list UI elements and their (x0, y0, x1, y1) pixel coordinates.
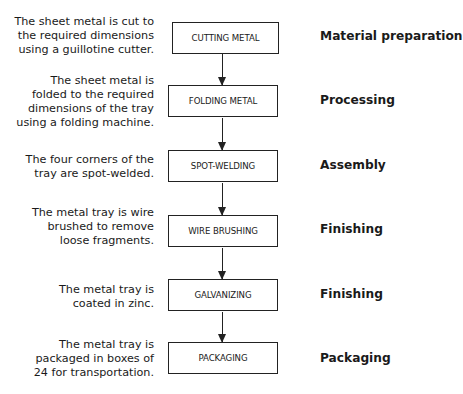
flow-arrow-3 (222, 183, 223, 215)
step-1-description: The sheet metal is cut to the required d… (14, 15, 154, 57)
stage-label-5: Finishing (320, 287, 383, 301)
desc-line: The metal tray is (34, 338, 154, 352)
desc-line: The four corners of the (26, 153, 154, 167)
desc-line: The sheet metal is (16, 74, 154, 88)
desc-line: 24 for transportation. (34, 366, 154, 380)
stage-label-4: Finishing (320, 222, 383, 236)
stage-label-6: Packaging (320, 351, 391, 365)
process-box-folding-metal: FOLDING METAL (168, 85, 278, 117)
desc-line: using a folding machine. (16, 116, 154, 130)
process-label: FOLDING METAL (189, 96, 257, 106)
desc-line: brushed to remove (32, 220, 154, 234)
desc-line: packaged in boxes of (34, 352, 154, 366)
process-label: WIRE BRUSHING (188, 226, 258, 236)
desc-line: using a guillotine cutter. (14, 43, 154, 57)
flow-arrow-2 (222, 118, 223, 150)
step-6-description: The metal tray is packaged in boxes of 2… (34, 338, 154, 380)
process-box-spot-welding: SPOT-WELDING (168, 150, 278, 182)
process-label: SPOT-WELDING (191, 161, 255, 171)
flow-arrow-1 (222, 54, 223, 85)
process-label: GALVANIZING (195, 290, 252, 300)
desc-line: tray are spot-welded. (26, 167, 154, 181)
process-label: CUTTING METAL (192, 33, 260, 43)
step-2-description: The sheet metal is folded to the require… (16, 74, 154, 130)
desc-line: The metal tray is wire (32, 206, 154, 220)
flow-arrow-4 (222, 248, 223, 279)
desc-line: folded to the required (16, 88, 154, 102)
desc-line: loose fragments. (32, 234, 154, 248)
process-box-galvanizing: GALVANIZING (168, 279, 278, 311)
desc-line: the required dimensions (14, 29, 154, 43)
step-3-description: The four corners of the tray are spot-we… (26, 153, 154, 181)
desc-line: The metal tray is (59, 283, 154, 297)
process-label: PACKAGING (199, 353, 248, 363)
desc-line: coated in zinc. (59, 297, 154, 311)
desc-line: dimensions of the tray (16, 102, 154, 116)
stage-label-3: Assembly (320, 158, 386, 172)
desc-line: The sheet metal is cut to (14, 15, 154, 29)
step-5-description: The metal tray is coated in zinc. (59, 283, 154, 311)
flow-arrow-5 (222, 312, 223, 342)
stage-label-1: Material preparation (320, 29, 463, 43)
step-4-description: The metal tray is wire brushed to remove… (32, 206, 154, 248)
process-box-cutting-metal: CUTTING METAL (172, 22, 279, 54)
stage-label-2: Processing (320, 93, 395, 107)
process-box-packaging: PACKAGING (168, 342, 278, 374)
process-box-wire-brushing: WIRE BRUSHING (168, 215, 278, 247)
